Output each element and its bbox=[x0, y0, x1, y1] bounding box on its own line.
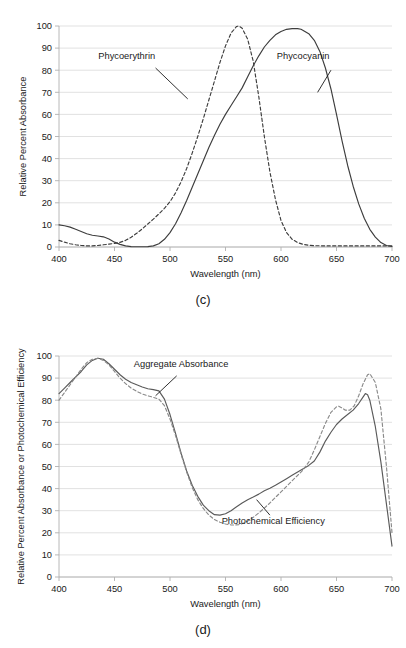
y-tick-label: 50 bbox=[42, 132, 52, 142]
x-tick-label: 400 bbox=[51, 584, 67, 594]
annotation-label: Phycoerythrin bbox=[98, 51, 155, 61]
y-tick-label: 60 bbox=[42, 110, 52, 120]
y-tick-label: 50 bbox=[42, 462, 52, 472]
panel-caption-c: (c) bbox=[0, 292, 406, 307]
y-tick-label: 100 bbox=[36, 21, 52, 31]
x-tick-label: 450 bbox=[107, 254, 123, 264]
x-tick-label: 650 bbox=[329, 584, 345, 594]
y-tick-label: 90 bbox=[42, 373, 52, 383]
x-tick-labels: 400450500550600650700 bbox=[51, 584, 400, 594]
x-tick-label: 400 bbox=[51, 254, 67, 264]
gridlines bbox=[59, 356, 392, 577]
chart-panel-d: 0102030405060708090100400450500550600650… bbox=[0, 324, 406, 648]
panel-caption-d: (d) bbox=[0, 622, 406, 637]
annotation-label: Aggregate Absorbance bbox=[134, 359, 229, 369]
y-tick-labels: 0102030405060708090100 bbox=[36, 351, 52, 582]
y-tick-label: 30 bbox=[42, 506, 52, 516]
x-tick-label: 600 bbox=[273, 254, 289, 264]
annotation-leader-line bbox=[257, 500, 270, 515]
x-axis-title: Wavelength (nm) bbox=[190, 599, 260, 609]
figure-page: 0102030405060708090100400450500550600650… bbox=[0, 0, 406, 648]
y-tick-label: 60 bbox=[42, 440, 52, 450]
y-tick-label: 90 bbox=[42, 43, 52, 53]
y-tick-label: 0 bbox=[47, 572, 52, 582]
chart-d-canvas: 0102030405060708090100400450500550600650… bbox=[0, 324, 406, 622]
chart-panel-c: 0102030405060708090100400450500550600650… bbox=[0, 0, 406, 324]
x-tick-label: 550 bbox=[218, 254, 234, 264]
x-tick-label: 500 bbox=[162, 254, 178, 264]
x-tick-label: 650 bbox=[329, 254, 345, 264]
y-tick-labels: 0102030405060708090100 bbox=[36, 21, 52, 252]
y-tick-label: 40 bbox=[42, 484, 52, 494]
y-tick-label: 30 bbox=[42, 176, 52, 186]
axes bbox=[55, 356, 392, 581]
y-tick-label: 100 bbox=[36, 351, 52, 361]
y-tick-label: 10 bbox=[42, 220, 52, 230]
x-tick-label: 600 bbox=[273, 584, 289, 594]
y-tick-label: 70 bbox=[42, 418, 52, 428]
annotation-label: Photochemical Efficiency bbox=[222, 516, 326, 526]
series-curve-photochemical-efficiency bbox=[59, 358, 392, 533]
annotation-label: Phycocyanin bbox=[277, 51, 330, 61]
annotation-leader-line bbox=[156, 68, 188, 99]
x-axis-title: Wavelength (nm) bbox=[190, 269, 260, 279]
y-axis-title: Relative Percent Absorbance or Photochem… bbox=[16, 348, 26, 585]
y-tick-label: 40 bbox=[42, 154, 52, 164]
x-tick-label: 700 bbox=[384, 584, 400, 594]
x-tick-label: 550 bbox=[218, 584, 234, 594]
y-tick-label: 20 bbox=[42, 528, 52, 538]
x-tick-label: 700 bbox=[384, 254, 400, 264]
chart-c-canvas: 0102030405060708090100400450500550600650… bbox=[0, 0, 406, 292]
x-tick-labels: 400450500550600650700 bbox=[51, 254, 400, 264]
y-tick-label: 80 bbox=[42, 396, 52, 406]
y-tick-label: 20 bbox=[42, 198, 52, 208]
x-tick-label: 500 bbox=[162, 584, 178, 594]
y-tick-label: 0 bbox=[47, 242, 52, 252]
x-tick-label: 450 bbox=[107, 584, 123, 594]
y-axis-title: Relative Percent Absorbance bbox=[18, 77, 28, 197]
annotation-leader-line bbox=[156, 376, 177, 396]
y-tick-label: 10 bbox=[42, 550, 52, 560]
annotations: PhycoerythrinPhycocyanin bbox=[98, 51, 331, 99]
annotations: Aggregate AbsorbancePhotochemical Effici… bbox=[134, 359, 325, 526]
y-tick-label: 80 bbox=[42, 66, 52, 76]
series-curve-phycocyanin bbox=[59, 29, 392, 247]
y-tick-label: 70 bbox=[42, 88, 52, 98]
